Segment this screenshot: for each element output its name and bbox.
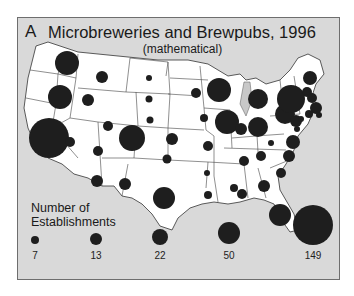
symbol-virginia [286,135,300,149]
symbol-indiana [235,123,247,135]
symbol-arkansas [204,170,210,176]
symbol-texas [153,187,175,209]
symbol-missouri [203,141,213,151]
symbol-california [29,118,69,158]
symbol-alabama [237,189,247,199]
symbol-delaware [298,116,304,122]
symbol-kentucky [256,151,266,161]
symbol-new-hampshire [307,93,317,103]
legend-circle-50 [218,222,240,244]
legend-circle-13 [90,233,102,245]
legend-title-line1: Number of [31,201,116,215]
legend-circle-22 [152,229,168,245]
legend-circle-7 [31,236,39,244]
map-figure: A Microbreweries and Brewpubs, 1996 (mat… [17,17,340,280]
legend-title-line2: Establishments [31,215,116,229]
symbol-colorado [119,125,145,151]
symbol-wisconsin [207,78,231,102]
symbol-utah [93,146,103,156]
legend-label-13: 13 [90,250,101,261]
symbol-oklahoma [163,155,172,164]
symbol-iowa [200,114,208,122]
symbol-oregon [48,85,72,109]
symbol-idaho [82,94,94,106]
symbol-new-mexico [119,178,131,190]
symbol-michigan [248,89,268,109]
symbol-new-york [277,85,305,113]
symbol-south-carolina [276,168,286,178]
symbol-minnesota [191,88,201,98]
symbol-rhode-island [316,112,322,118]
legend-circle-149 [293,205,333,245]
legend-label-149: 149 [305,250,322,261]
symbol-louisiana [204,191,212,199]
symbol-wyoming [103,121,113,131]
map-subtitle: (mathematical) [18,42,339,56]
symbol-nevada [65,137,75,147]
symbol-montana [96,71,108,83]
symbol-arizona [91,175,103,187]
legend-title: Number of Establishments [31,201,116,229]
symbol-north-dakota [146,75,152,81]
symbol-north-carolina [283,150,295,162]
legend-label-7: 7 [32,250,38,261]
symbol-georgia [258,180,270,192]
symbol-mississippi [230,184,238,192]
symbol-south-dakota [146,96,153,103]
legend-label-50: 50 [223,250,234,261]
symbol-kansas [166,133,178,145]
symbol-maine [303,71,317,85]
symbol-maryland [294,126,300,132]
symbol-connecticut [305,110,313,118]
symbol-nebraska [147,117,154,124]
symbol-west-virginia [268,140,274,146]
map-title: Microbreweries and Brewpubs, 1996 [48,23,316,42]
symbol-florida [269,204,291,226]
legend-label-22: 22 [154,250,165,261]
symbol-tennessee [239,156,249,166]
panel-letter: A [25,22,36,42]
us-map [18,18,340,280]
symbol-ohio [248,117,268,137]
